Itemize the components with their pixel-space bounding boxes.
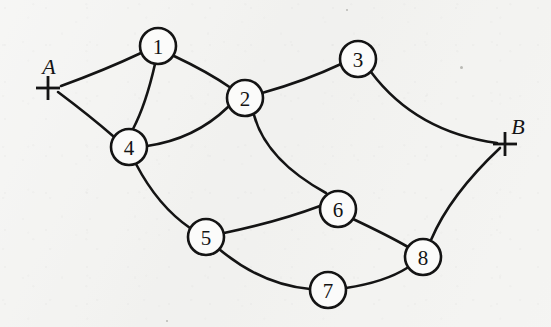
node-label-6: 6: [333, 198, 344, 222]
node-label-5: 5: [201, 226, 212, 250]
graph-node-4: 4: [111, 129, 147, 165]
terminals-layer: AB: [36, 54, 525, 157]
node-label-8: 8: [418, 246, 429, 270]
terminal-label-B: B: [511, 114, 524, 139]
diagram-canvas: AB 12345678: [0, 0, 551, 327]
graph-edge-5-6: [224, 206, 320, 233]
graph-edge-2-3: [262, 64, 341, 93]
graph-edge-5-7: [219, 249, 310, 289]
graph-edge-7-8: [346, 268, 407, 288]
graph-edge-3-B: [371, 72, 497, 143]
graph-node-8: 8: [405, 239, 441, 275]
graph-edge-1-4: [133, 64, 155, 129]
graph-edge-6-8: [353, 219, 408, 247]
graph-node-7: 7: [310, 272, 346, 308]
graph-node-6: 6: [320, 191, 356, 227]
graph-node-3: 3: [340, 41, 376, 77]
node-label-2: 2: [240, 87, 251, 111]
graph-node-1: 1: [140, 28, 176, 64]
node-label-7: 7: [323, 279, 334, 303]
nodes-layer: 12345678: [111, 28, 441, 308]
graph-edge-2-6: [254, 115, 326, 193]
graph-edge-4-2: [147, 107, 228, 146]
graph-node-5: 5: [188, 219, 224, 255]
terminal-label-A: A: [40, 54, 56, 79]
graph-edge-A-1: [61, 53, 141, 86]
node-label-4: 4: [124, 136, 135, 160]
graph-node-2: 2: [227, 80, 263, 116]
node-label-1: 1: [153, 35, 164, 59]
terminal-A: A: [36, 54, 60, 101]
network-graph: AB 12345678: [0, 0, 551, 327]
node-label-3: 3: [353, 48, 364, 72]
graph-edge-4-5: [136, 164, 190, 228]
graph-edge-8-B: [431, 148, 500, 240]
graph-edge-A-4: [58, 92, 113, 136]
graph-edge-1-2: [174, 56, 231, 88]
